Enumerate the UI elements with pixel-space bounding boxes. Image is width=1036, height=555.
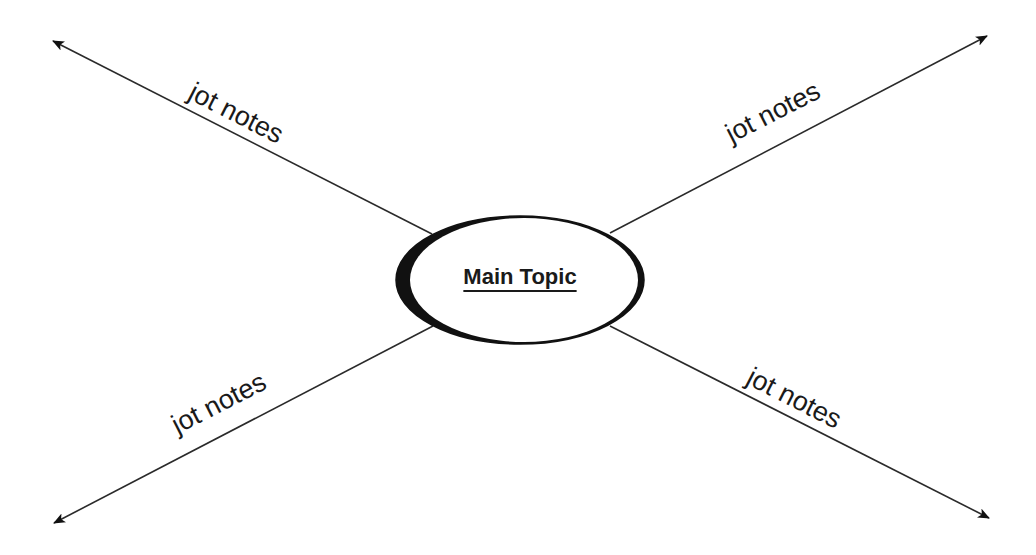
arrow-top-right	[610, 36, 987, 233]
arrow-bottom-left	[54, 326, 433, 523]
arrow-bottom-right	[610, 326, 989, 518]
main-topic-label: Main Topic	[440, 264, 600, 290]
arrow-top-left	[53, 41, 432, 234]
